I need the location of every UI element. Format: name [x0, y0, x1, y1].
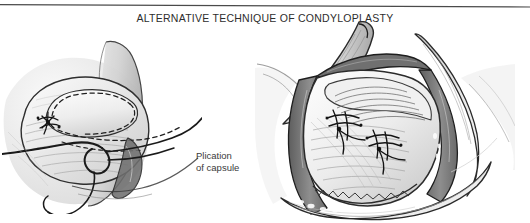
- suture-knot-left: [38, 112, 60, 134]
- caption-line-1: Plication: [196, 150, 239, 162]
- figure-caption: Plication of capsule: [196, 150, 239, 173]
- title-rule: [0, 4, 530, 8]
- suture-knot-dot: [46, 120, 50, 124]
- suture-thread: [48, 172, 94, 214]
- suture-knot-2-dot: [377, 147, 382, 152]
- left-illustration-drawing: [2, 34, 202, 214]
- suture-knot-1: [327, 110, 365, 154]
- figure-title: ALTERNATIVE TECHNIQUE OF CONDYLOPLASTY: [0, 12, 530, 24]
- right-illustration: [255, 18, 515, 221]
- suture-knot-1-dot: [337, 127, 342, 132]
- figure-container: ALTERNATIVE TECHNIQUE OF CONDYLOPLASTY: [0, 0, 530, 223]
- suture-needle: [2, 142, 102, 154]
- suture-knot-2: [367, 130, 405, 174]
- left-illustration: [2, 34, 202, 214]
- right-illustration-drawing: [255, 18, 515, 221]
- caption-line-2: of capsule: [196, 162, 239, 174]
